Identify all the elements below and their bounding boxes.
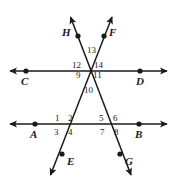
point-label-b: B — [135, 129, 142, 140]
angle-label-8: 8 — [114, 128, 119, 137]
point-label-a: A — [30, 129, 37, 140]
angle-label-1: 1 — [55, 114, 60, 123]
point-dot-a — [32, 121, 37, 126]
angle-label-3: 3 — [54, 128, 59, 137]
point-label-e: E — [67, 156, 74, 167]
angle-label-9: 9 — [76, 71, 81, 80]
transversal-line-fe — [51, 17, 113, 175]
point-label-g: G — [125, 156, 133, 167]
transversal-line-hg — [71, 17, 132, 175]
point-dot-c — [23, 68, 28, 73]
point-label-h: H — [62, 27, 71, 38]
angle-label-12: 12 — [72, 61, 81, 70]
angle-label-5: 5 — [99, 114, 104, 123]
point-dot-g — [117, 151, 122, 156]
point-label-c: C — [21, 76, 28, 87]
angle-label-14: 14 — [94, 61, 103, 70]
point-label-f: F — [109, 27, 116, 38]
point-dot-f — [101, 33, 106, 38]
point-dot-e — [59, 151, 64, 156]
angle-label-13: 13 — [87, 46, 96, 55]
angle-label-11: 11 — [93, 71, 102, 80]
point-label-d: D — [136, 76, 144, 87]
point-dot-h — [75, 33, 80, 38]
angle-label-7: 7 — [100, 128, 105, 137]
geometry-diagram: C D A B H F E G 1 2 3 4 5 6 7 8 9 10 11 … — [0, 0, 177, 189]
angle-label-2: 2 — [68, 114, 73, 123]
angle-label-6: 6 — [113, 114, 118, 123]
point-dot-b — [136, 121, 141, 126]
point-dot-d — [137, 68, 142, 73]
angle-label-10: 10 — [84, 86, 93, 95]
angle-label-4: 4 — [68, 128, 73, 137]
